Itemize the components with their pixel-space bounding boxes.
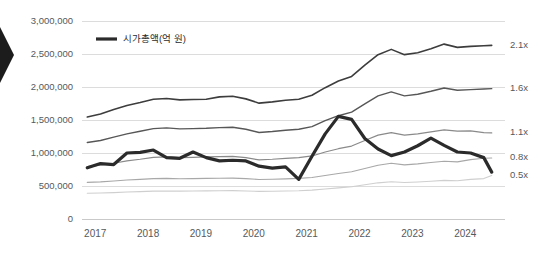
chart-container: 0500,0001,000,0001,500,0002,000,0002,500… <box>0 0 547 263</box>
series-line <box>87 175 491 193</box>
right-axis-label: 1.6x <box>510 82 528 93</box>
series-line <box>87 130 491 167</box>
chevron-right-marker-icon <box>0 27 14 83</box>
x-axis-tick-label: 2021 <box>296 228 319 239</box>
y-axis-tick-label: 1,500,000 <box>31 114 73 125</box>
left-edge-marker <box>0 27 14 83</box>
x-axis-tick-label: 2017 <box>84 228 107 239</box>
x-axis-tick-label: 2020 <box>243 228 266 239</box>
line-chart: 0500,0001,000,0001,500,0002,000,0002,500… <box>0 0 547 263</box>
right-axis-label: 0.8x <box>510 151 528 162</box>
x-axis-tick-label: 2024 <box>454 228 477 239</box>
y-axis-tick-labels: 0500,0001,000,0001,500,0002,000,0002,500… <box>31 15 73 224</box>
chart-legend: 시가총액(억 원) <box>96 33 186 44</box>
legend-label-market-cap: 시가총액(억 원) <box>123 33 186 44</box>
x-axis-tick-label: 2022 <box>348 228 371 239</box>
x-axis-tick-label: 2018 <box>137 228 160 239</box>
x-axis-tick-label: 2023 <box>401 228 424 239</box>
right-axis-label: 0.5x <box>510 169 528 180</box>
right-axis-label: 2.1x <box>510 39 528 50</box>
x-axis-tick-label: 2019 <box>190 228 213 239</box>
right-axis-labels: 2.1x1.6x1.1x0.8x0.5x <box>510 39 528 180</box>
y-axis-tick-label: 1,000,000 <box>31 147 73 158</box>
series-lines <box>87 44 491 193</box>
y-axis-tick-label: 2,000,000 <box>31 81 73 92</box>
y-axis-tick-label: 2,500,000 <box>31 48 73 59</box>
right-axis-label: 1.1x <box>510 126 528 137</box>
y-axis-tick-label: 0 <box>68 213 73 224</box>
series-line <box>87 116 491 179</box>
y-axis-tick-label: 3,000,000 <box>31 15 73 26</box>
x-axis-tick-labels: 20172018201920202021202220232024 <box>84 228 477 239</box>
y-axis-tick-label: 500,000 <box>39 180 73 191</box>
series-line <box>87 88 491 142</box>
gridlines <box>82 22 505 220</box>
series-line <box>87 44 491 117</box>
